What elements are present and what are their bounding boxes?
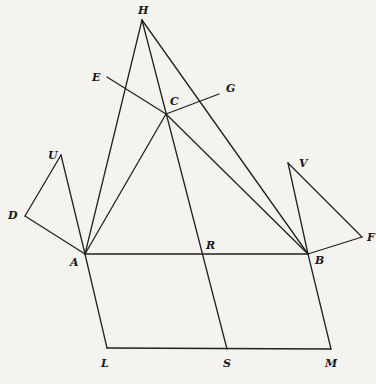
point-label-G: G bbox=[226, 82, 235, 95]
segment-LM bbox=[107, 348, 331, 349]
segment-DA bbox=[25, 216, 85, 254]
segment-CB bbox=[166, 114, 308, 254]
diagram-labels: HECGUDAVFBRLSM bbox=[7, 4, 376, 370]
point-label-R: R bbox=[205, 239, 215, 252]
point-label-U: U bbox=[48, 149, 59, 162]
segment-CA bbox=[85, 114, 166, 254]
point-label-D: D bbox=[7, 209, 18, 222]
segment-FV bbox=[288, 163, 362, 237]
point-label-E: E bbox=[91, 71, 101, 84]
point-label-M: M bbox=[324, 357, 338, 370]
point-label-A: A bbox=[69, 256, 79, 269]
point-label-F: F bbox=[366, 231, 376, 244]
diagram-edges bbox=[25, 20, 362, 349]
segment-EC bbox=[107, 77, 166, 114]
point-label-S: S bbox=[223, 357, 231, 370]
segment-HS bbox=[142, 20, 227, 349]
segment-MB bbox=[308, 254, 331, 349]
point-label-B: B bbox=[314, 254, 324, 267]
segment-HB bbox=[142, 20, 308, 254]
geometry-diagram: HECGUDAVFBRLSM bbox=[0, 0, 376, 384]
point-label-H: H bbox=[137, 4, 149, 17]
segment-DU bbox=[25, 155, 61, 216]
point-label-V: V bbox=[299, 157, 309, 170]
point-label-C: C bbox=[170, 95, 179, 108]
segment-AL bbox=[85, 254, 107, 348]
segment-FB bbox=[308, 237, 362, 254]
point-label-L: L bbox=[100, 357, 109, 370]
segment-HA bbox=[85, 20, 142, 254]
segment-UA bbox=[61, 155, 85, 254]
